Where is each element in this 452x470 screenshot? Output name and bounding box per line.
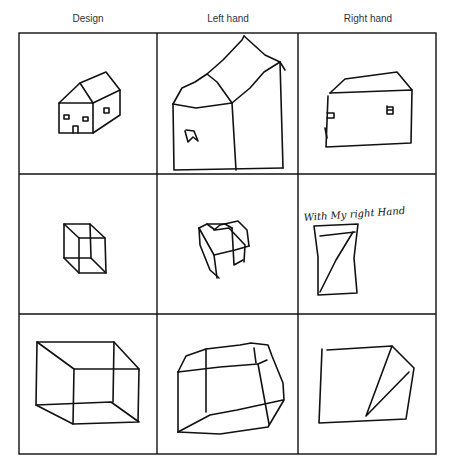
design-small-cube-drawing — [64, 224, 106, 273]
left-hand-small-cube-drawing — [199, 221, 249, 278]
design-house-drawing — [59, 72, 120, 133]
right-hand-small-cube-drawing — [314, 224, 358, 295]
design-large-cube-drawing — [36, 342, 139, 424]
right-hand-house-drawing — [325, 72, 412, 147]
right-hand-large-cube-drawing — [319, 346, 414, 423]
left-hand-house-drawing — [173, 36, 285, 170]
handwritten-annotation: With My right Hand — [303, 205, 405, 223]
drawing-grid: With My right Hand — [0, 0, 452, 470]
left-hand-large-cube-drawing — [178, 343, 284, 434]
